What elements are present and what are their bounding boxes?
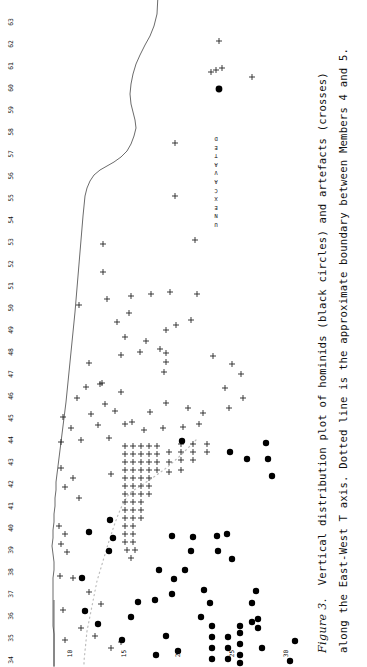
axis-tick-label: 42 <box>5 475 17 493</box>
scatter-plot: 63 62 61 60 59 58 57 56 55 54 53 52 51 5… <box>0 0 300 667</box>
axis-tick-label: 46 <box>5 387 17 405</box>
axis-tick-label: 56 <box>5 167 17 185</box>
axis-tick-label: 36 <box>5 607 17 625</box>
axis-tick-label: 59 <box>5 101 17 119</box>
axis-tick-label: 35 <box>5 629 17 647</box>
axis-tick-label: 40 <box>5 519 17 537</box>
depth-tick-label: 25 <box>226 645 237 663</box>
axis-tick-label: 52 <box>5 255 17 273</box>
depth-tick-label: 15 <box>118 645 129 663</box>
axis-tick-label: 39 <box>5 541 17 559</box>
axis-tick-label: 54 <box>5 211 17 229</box>
caption-text-1: Vertical distribution plot of hominids (… <box>316 72 328 585</box>
axis-tick-label: 58 <box>5 123 17 141</box>
axis-tick-label: 60 <box>5 79 17 97</box>
caption-line-1: Figure 3. Vertical distribution plot of … <box>312 13 333 653</box>
unexcavated-text: UNEXCAVATED <box>213 134 219 229</box>
unexcavated-label: UNEXCAVATED <box>196 122 236 240</box>
depth-tick-label: 10 <box>64 645 75 663</box>
hominid-markers <box>79 86 298 667</box>
figure-page: 63 62 61 60 59 58 57 56 55 54 53 52 51 5… <box>0 0 367 667</box>
axis-tick-label: 43 <box>5 453 17 471</box>
axis-tick-label: 63 <box>5 13 17 31</box>
depth-tick-label: 20 <box>172 645 183 663</box>
caption-figure-label: Figure 3. <box>316 598 329 653</box>
axis-tick-label: 53 <box>5 233 17 251</box>
depth-tick-label: 30 <box>280 645 291 663</box>
axis-tick-label: 45 <box>5 409 17 427</box>
axis-tick-label: 44 <box>5 431 17 449</box>
axis-tick-label: 55 <box>5 189 17 207</box>
axis-tick-label: 49 <box>5 321 17 339</box>
member-boundary-line <box>84 440 196 667</box>
axis-tick-label: 37 <box>5 585 17 603</box>
section-line <box>52 0 158 666</box>
figure-caption-inner: Figure 3. Vertical distribution plot of … <box>312 13 364 653</box>
caption-line-2: along the East-West T axis. Dotted line … <box>333 13 353 653</box>
axis-tick-label: 62 <box>5 35 17 53</box>
figure-caption: Figure 3. Vertical distribution plot of … <box>309 0 367 667</box>
axis-tick-label: 61 <box>5 57 17 75</box>
axis-tick-label: 34 <box>5 651 17 667</box>
axis-tick-label: 51 <box>5 277 17 295</box>
axis-tick-label: 41 <box>5 497 17 515</box>
axis-tick-label: 57 <box>5 145 17 163</box>
axis-tick-label: 47 <box>5 365 17 383</box>
axis-tick-label: 50 <box>5 299 17 317</box>
axis-tick-label: 48 <box>5 343 17 361</box>
plot-svg <box>0 0 300 667</box>
axis-tick-label: 38 <box>5 563 17 581</box>
